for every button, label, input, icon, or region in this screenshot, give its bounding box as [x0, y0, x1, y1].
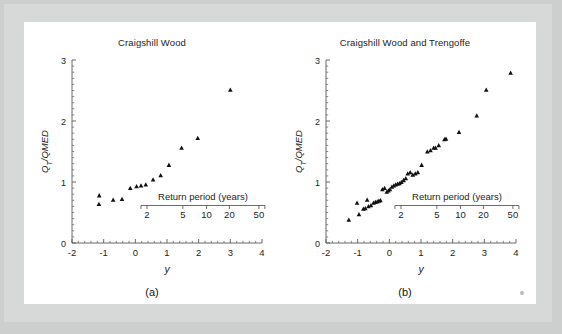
x-tick-label: 0: [133, 247, 138, 258]
data-point-marker: [484, 88, 489, 92]
x-tick-label: -2: [322, 247, 330, 258]
x-tick-label: 4: [259, 247, 264, 258]
return-period-tick-label: 50: [508, 209, 519, 220]
chart-panel-b: Craigshill Wood and Trengoffe 0123-2-101…: [274, 22, 536, 304]
data-point-marker: [111, 197, 116, 201]
chart-title-a: Craigshill Wood: [24, 37, 280, 48]
data-point-marker: [382, 186, 387, 190]
x-tick-label: 3: [482, 247, 487, 258]
data-point-marker: [228, 88, 233, 92]
y-tick-label: 2: [315, 117, 320, 127]
return-period-tick-label: 2: [144, 209, 149, 220]
x-tick-label: 1: [418, 247, 423, 258]
return-period-tick-label: 5: [434, 209, 439, 220]
return-period-tick-label: 2: [398, 209, 403, 220]
data-point-marker: [195, 136, 200, 140]
data-point-marker: [508, 71, 513, 75]
x-tick-label: -2: [68, 247, 76, 258]
data-point-marker: [365, 197, 370, 201]
panel-letter-a: (a): [24, 286, 280, 298]
data-point-marker: [120, 197, 125, 201]
data-point-marker: [355, 200, 360, 204]
data-point-marker: [474, 113, 479, 117]
y-tick-label: 3: [61, 56, 66, 66]
data-point-marker: [416, 170, 421, 174]
x-tick-label: 1: [164, 247, 169, 258]
data-point-marker: [457, 130, 462, 134]
x-tick-label: 4: [513, 247, 518, 258]
x-tick-label: 2: [450, 247, 455, 258]
x-tick-label: 3: [228, 247, 233, 258]
data-point-marker: [404, 176, 409, 180]
data-point-marker: [158, 173, 163, 177]
data-point-marker: [139, 183, 144, 187]
y-tick-label: 2: [61, 117, 66, 127]
data-point-marker: [167, 163, 172, 167]
corner-mark-dot: [520, 291, 524, 295]
data-point-marker: [143, 182, 148, 186]
return-period-tick-label: 50: [254, 209, 265, 220]
data-point-marker: [436, 143, 441, 147]
y-tick-label: 0: [61, 239, 66, 249]
data-point-marker: [419, 163, 424, 167]
y-axis-label: QT/QMED: [39, 130, 53, 173]
return-period-tick-label: 10: [201, 209, 212, 220]
chart-title-b: Craigshill Wood and Trengoffe: [274, 37, 536, 48]
figure-panel: Craigshill Wood 0123-2-10123425102050Ret…: [24, 22, 536, 304]
chart-panel-a: Craigshill Wood 0123-2-10123425102050Ret…: [24, 22, 280, 304]
y-axis-label-rest: /QMED: [39, 130, 50, 162]
x-axis-label: y: [417, 263, 424, 275]
data-point-marker: [151, 177, 156, 181]
y-tick-label: 0: [315, 239, 320, 249]
panel-letter-b: (b): [274, 286, 536, 298]
data-point-marker: [357, 212, 362, 216]
return-period-tick-label: 5: [180, 209, 185, 220]
x-tick-label: -1: [99, 247, 107, 258]
scatter-plot-b: 0123-2-10123425102050Return period (year…: [274, 22, 536, 304]
figure-root: Craigshill Wood 0123-2-10123425102050Ret…: [0, 0, 562, 334]
data-point-marker: [97, 202, 102, 206]
return-period-tick-label: 10: [455, 209, 466, 220]
data-point-marker: [347, 218, 352, 222]
x-tick-label: 2: [196, 247, 201, 258]
x-axis-label: y: [163, 263, 170, 275]
data-point-group: [97, 88, 233, 206]
y-tick-label: 1: [61, 178, 66, 188]
y-tick-label: 3: [315, 56, 320, 66]
data-point-marker: [179, 146, 184, 150]
x-tick-label: 0: [387, 247, 392, 258]
y-axis-label-rest: /QMED: [293, 130, 304, 162]
return-period-axis-label: Return period (years): [412, 191, 502, 202]
return-period-axis-label: Return period (years): [158, 191, 248, 202]
y-tick-label: 1: [315, 178, 320, 188]
y-axis-label: QT/QMED: [293, 130, 307, 173]
return-period-tick-label: 20: [224, 209, 235, 220]
data-point-marker: [408, 170, 413, 174]
figure-mat: Craigshill Wood 0123-2-10123425102050Ret…: [4, 4, 552, 322]
data-point-marker: [134, 184, 139, 188]
data-point-marker: [97, 193, 102, 197]
return-period-tick-label: 20: [478, 209, 489, 220]
x-tick-label: -1: [353, 247, 361, 258]
scatter-plot-a: 0123-2-10123425102050Return period (year…: [24, 22, 280, 304]
data-point-marker: [128, 186, 133, 190]
